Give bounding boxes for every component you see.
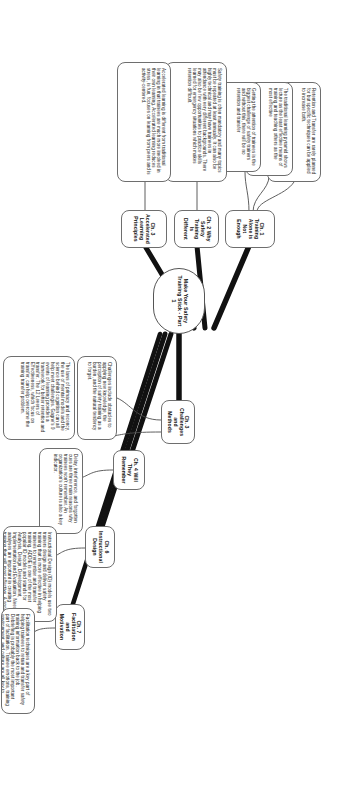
chapter-node-ch7[interactable]: Ch. 7 Facilitation and Motivation [55,604,85,650]
chapter-label: Ch. 2 Why Safety Training Is Different [182,216,211,242]
note-node-ch5-1[interactable]: Delay, interference, and forgotten cues … [39,448,83,534]
note-text: Facilitation techniques are a key part o… [1,614,30,708]
chapter-node-ch4[interactable]: Ch. 3 Challenges and Methods [161,400,195,444]
chapter-node-ch3[interactable]: Ch. 3 Accelerated Learning Principles [121,210,167,248]
chapter-label: Ch. 3 Accelerated Learning Principles [133,214,156,244]
root-node[interactable]: Make Your Safety Training Stick - Part 1 [153,268,205,334]
chapter-label: Ch. 6 Instructional Design [91,531,108,563]
chapter-node-ch5[interactable]: Ch. 4 Will They Remember [113,450,145,490]
link-ch6-note1 [55,548,85,556]
chapter-node-ch6[interactable]: Ch. 6 Instructional Design [85,526,115,568]
chapter-label: Ch. 4 Will They Remember [120,456,137,484]
note-text: Delay, interference, and forgotten cues … [53,454,78,528]
note-node-ch7-1[interactable]: Facilitation techniques are a key part o… [1,608,35,714]
note-text: Retention and Transfer are rarely planne… [301,88,316,176]
chapter-node-ch1[interactable]: Ch. 1 Training Alone is Not Enough [225,210,275,248]
link-ch5-note1 [81,470,113,478]
link-ch1-note3 [245,172,249,212]
chapter-label: Ch. 1 Training Alone is Not Enough [236,216,265,242]
chapter-label: Ch. 3 Challenges and Methods [167,406,190,438]
note-text: The traditional learning pyramid shows l… [268,88,288,170]
note-text: The laws of primacy and recency, the use… [20,362,70,434]
note-text: Safety training is often mandatory and m… [187,68,222,176]
note-text: Challenges include obstacles to applying… [87,362,112,434]
chapter-label: Ch. 7 Facilitation and Motivation [59,610,82,644]
mindmap-canvas: Make Your Safety Training Stick - Part 1… [0,0,357,801]
note-node-ch3-1[interactable]: Accelerated learning is different from t… [117,62,171,182]
note-text: Accelerated learning is different from t… [141,68,166,176]
root-label: Make Your Safety Training Stick - Part 1 [170,275,187,327]
note-node-ch4-1[interactable]: Challenges include obstacles to applying… [77,356,117,440]
trunk-ch1 [214,246,249,328]
note-node-ch2-1[interactable]: Safety training is often mandatory and m… [165,62,227,182]
link-ch1-note1 [257,182,294,212]
chapter-node-ch2[interactable]: Ch. 2 Why Safety Training Is Different [174,210,219,248]
link-ch1-note2 [253,176,269,212]
note-text: Getting the attention of trainees is the… [236,88,256,166]
note-text: Instructional Design (ID) models use two… [3,532,52,616]
note-node-ch4-2[interactable]: The laws of primacy and recency, the use… [3,356,75,440]
